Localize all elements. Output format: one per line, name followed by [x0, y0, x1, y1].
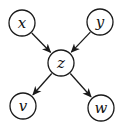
causal-graph: xyzvw: [0, 0, 123, 130]
edge-z-v: [33, 73, 52, 94]
node-z: z: [48, 50, 74, 76]
node-label-z: z: [56, 54, 65, 72]
node-label-w: w: [95, 99, 108, 117]
edge-y-z: [71, 32, 90, 52]
edge-z-w: [70, 73, 91, 96]
node-x: x: [9, 10, 35, 36]
node-label-x: x: [18, 14, 27, 32]
node-label-v: v: [19, 97, 28, 115]
diagram-canvas: xyzvw: [0, 0, 123, 130]
node-w: w: [88, 95, 114, 121]
node-v: v: [10, 93, 36, 119]
node-y: y: [87, 9, 113, 35]
edge-x-z: [32, 33, 51, 52]
node-label-y: y: [95, 13, 105, 31]
